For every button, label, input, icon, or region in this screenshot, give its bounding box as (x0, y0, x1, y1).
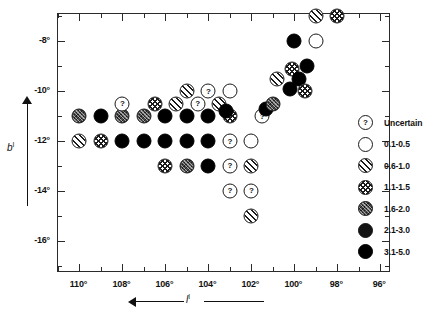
uncertain-glyph: ? (363, 119, 368, 127)
data-point (201, 109, 216, 124)
x-tick (251, 264, 252, 271)
x-tick (294, 14, 295, 21)
data-point (136, 109, 151, 124)
x-tick (165, 14, 166, 21)
x-tick (144, 14, 145, 18)
data-point (300, 59, 315, 74)
x-axis-arrow-icon (128, 297, 136, 307)
legend-swatch-icon (358, 137, 373, 152)
x-tick-label: 96° (373, 279, 386, 289)
x-tick (79, 14, 80, 21)
data-point (136, 134, 151, 149)
data-point: ? (190, 96, 205, 111)
chart-legend: ?Uncertain0.1-0.50.6-1.01.1-1.51.6-2.02.… (358, 112, 427, 263)
legend-item-1.1-1.5: 1.1-1.5 (358, 177, 427, 199)
legend-label: 2.1-3.0 (384, 225, 410, 235)
data-point (93, 134, 108, 149)
data-point (115, 134, 130, 149)
uncertain-glyph: ? (227, 162, 232, 170)
x-tick (294, 264, 295, 271)
y-tick (385, 266, 389, 267)
x-tick (273, 267, 274, 271)
y-tick (382, 41, 389, 42)
y-tick-label: -10° (16, 85, 50, 95)
x-axis-title: lI (186, 293, 190, 305)
x-tick (187, 14, 188, 18)
legend-swatch-icon (358, 158, 373, 173)
y-tick (58, 16, 62, 17)
data-point (93, 109, 108, 124)
x-tick (359, 267, 360, 271)
data-point (330, 9, 345, 24)
x-tick (79, 264, 80, 271)
data-point (179, 84, 194, 99)
data-point (158, 134, 173, 149)
uncertain-glyph: ? (195, 100, 200, 108)
legend-label: Uncertain (384, 118, 422, 128)
y-tick (58, 191, 65, 192)
y-tick (385, 66, 389, 67)
y-tick (58, 241, 65, 242)
legend-label: 1.1-1.5 (384, 182, 410, 192)
legend-label: 0.1-0.5 (384, 139, 410, 149)
legend-label: 0.6-1.0 (384, 161, 410, 171)
plot-frame: ???????? ?Uncertain0.1-0.50.6-1.01.1-1.5… (57, 13, 390, 272)
data-point (179, 109, 194, 124)
x-tick (230, 14, 231, 18)
data-point (72, 134, 87, 149)
data-point: ? (244, 183, 259, 198)
x-tick-label: 100° (284, 279, 302, 289)
data-point (179, 134, 194, 149)
legend-swatch-icon (358, 201, 373, 216)
x-axis-arrow-line-left (136, 301, 184, 302)
data-point: ? (222, 158, 237, 173)
uncertain-glyph: ? (249, 187, 254, 195)
x-tick (122, 14, 123, 21)
x-tick (122, 264, 123, 271)
x-tick (316, 267, 317, 271)
uncertain-glyph: ? (227, 187, 232, 195)
data-point (201, 134, 216, 149)
x-tick (101, 267, 102, 271)
data-point: ? (222, 134, 237, 149)
legend-label: 1.6-2.0 (384, 204, 410, 214)
y-tick (382, 91, 389, 92)
data-point (158, 109, 173, 124)
y-tick (58, 216, 62, 217)
x-tick-label: 102° (241, 279, 259, 289)
data-point (287, 34, 302, 49)
legend-item-0.6-1.0: 0.6-1.0 (358, 155, 427, 177)
x-tick (208, 14, 209, 21)
data-point (244, 208, 259, 223)
x-tick-label: 106° (155, 279, 173, 289)
legend-swatch-icon (358, 244, 373, 259)
y-tick (58, 91, 65, 92)
data-point (244, 158, 259, 173)
data-point (222, 84, 237, 99)
x-tick (208, 264, 209, 271)
data-point: ? (201, 84, 216, 99)
data-point: ? (222, 183, 237, 198)
x-tick-label: 108° (113, 279, 131, 289)
uncertain-glyph: ? (206, 87, 211, 95)
y-tick (58, 41, 65, 42)
x-tick (337, 264, 338, 271)
y-tick (58, 66, 62, 67)
x-tick (273, 14, 274, 18)
data-point (169, 96, 184, 111)
legend-item-3.1-5.0: 3.1-5.0 (358, 241, 427, 263)
data-point (308, 9, 323, 24)
y-tick (58, 116, 62, 117)
x-tick (144, 267, 145, 271)
x-tick (101, 14, 102, 18)
data-point (201, 158, 216, 173)
legend-swatch-icon (358, 180, 373, 195)
x-tick (230, 267, 231, 271)
y-tick-label: -8° (16, 35, 50, 45)
y-axis-title-group: bI (9, 96, 39, 206)
y-axis-arrow-line (27, 102, 28, 206)
x-tick (380, 264, 381, 271)
x-tick (58, 267, 59, 271)
legend-label: 3.1-5.0 (384, 247, 410, 257)
